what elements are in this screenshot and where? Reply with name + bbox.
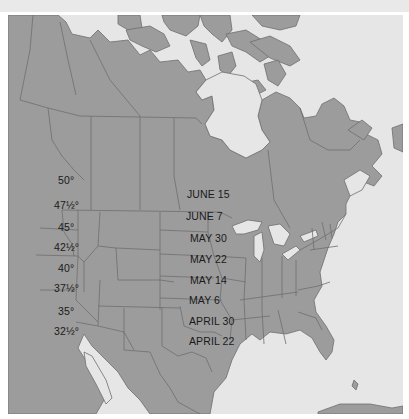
latitude-label: 45° (58, 221, 74, 233)
date-label: APRIL 30 (189, 315, 234, 327)
date-label: APRIL 22 (189, 335, 234, 347)
latitude-label: 42½° (54, 241, 79, 253)
latitude-label: 37½° (54, 282, 79, 294)
date-label: MAY 6 (189, 294, 220, 306)
date-label: JUNE 7 (186, 210, 223, 222)
date-label: MAY 30 (190, 232, 227, 244)
latitude-label: 47½° (54, 199, 79, 211)
latitude-label: 50° (58, 174, 74, 186)
date-label: MAY 14 (190, 274, 227, 286)
date-label: JUNE 15 (187, 188, 230, 200)
latitude-label: 35° (58, 305, 74, 317)
date-label: MAY 22 (190, 253, 227, 265)
latitude-label: 40° (58, 262, 74, 274)
top-band (0, 0, 409, 12)
latitude-label: 32½° (54, 325, 79, 337)
